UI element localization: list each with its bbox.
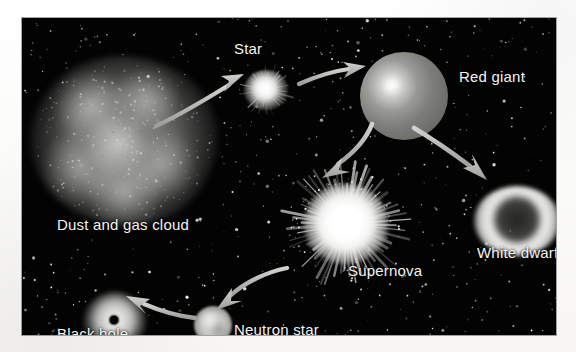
red-giant-object <box>360 52 448 140</box>
arrow-cloud-to-star <box>156 74 244 126</box>
star-field <box>22 18 556 335</box>
label-star: Star <box>234 40 262 57</box>
night-sky-panel: Star Red giant Dust and gas cloud Supern… <box>22 18 556 335</box>
arrow-star-to-red-giant <box>299 62 366 84</box>
label-neutron-star: Neutron star <box>234 321 319 335</box>
stellar-evolution-figure: Star Red giant Dust and gas cloud Supern… <box>0 0 576 352</box>
arrow-giant-to-white-dwarf <box>414 128 487 180</box>
star-spike-rays <box>230 56 302 124</box>
black-hole-singularity <box>110 316 118 324</box>
arrow-neutron-star-to-black-hole <box>126 296 195 318</box>
label-white-dwarf: White dwarf <box>477 244 556 261</box>
arrow-supernova-to-neutron-star <box>216 268 287 310</box>
dust-cloud-speckle-texture <box>30 56 218 226</box>
label-dust-and-gas-cloud: Dust and gas cloud <box>57 216 189 233</box>
supernova-core <box>304 184 388 264</box>
label-black-hole: Black hole <box>57 325 128 335</box>
arrow-giant-to-supernova <box>322 124 372 178</box>
star-object <box>244 70 288 110</box>
dust-and-gas-cloud-object <box>30 56 218 226</box>
evolution-arrows <box>22 18 556 335</box>
label-supernova: Supernova <box>348 262 422 279</box>
neutron-star-object <box>194 306 232 335</box>
label-red-giant: Red giant <box>459 68 525 85</box>
